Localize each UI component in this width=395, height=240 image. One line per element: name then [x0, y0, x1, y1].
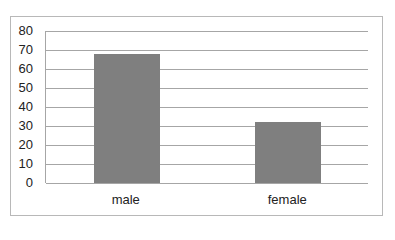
gridline	[46, 183, 368, 184]
x-category-label: female	[247, 193, 327, 207]
y-tick-label: 10	[3, 157, 33, 171]
y-tick-label: 20	[3, 138, 33, 152]
y-tick-label: 30	[3, 119, 33, 133]
gridline	[46, 50, 368, 51]
y-tick-label: 50	[3, 81, 33, 95]
plot-area	[45, 31, 368, 183]
x-category-label: male	[86, 193, 166, 207]
bar-male	[94, 54, 160, 183]
y-tick-label: 70	[3, 43, 33, 57]
gridline	[46, 31, 368, 32]
y-tick-label: 40	[3, 100, 33, 114]
bar-female	[255, 122, 321, 183]
y-tick-label: 80	[3, 24, 33, 38]
y-tick-label: 0	[3, 176, 33, 190]
y-tick-label: 60	[3, 62, 33, 76]
